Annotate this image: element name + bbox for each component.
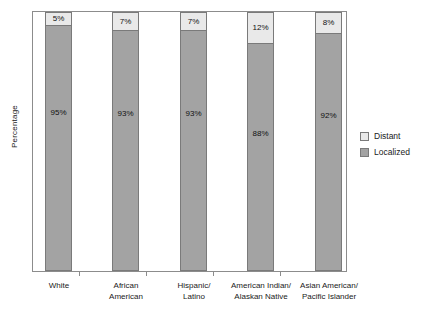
legend-label: Localized bbox=[374, 147, 410, 157]
stacked-bar-chart: Percentage 5% 95% 7% 93% bbox=[0, 0, 428, 323]
bar-segment-label: 7% bbox=[188, 18, 200, 26]
bar-segment-localized[interactable]: 93% bbox=[180, 30, 207, 271]
bar-stack: 7% 93% bbox=[112, 12, 139, 271]
bar-segment-label: 92% bbox=[316, 112, 341, 120]
bar-group[interactable]: 7% 93% bbox=[180, 12, 207, 271]
bar-segment-distant[interactable]: 12% bbox=[247, 12, 274, 43]
bar-group[interactable]: 8% 92% bbox=[315, 12, 342, 271]
legend-item-distant[interactable]: Distant bbox=[360, 131, 426, 141]
x-axis-label-asian-american-pacific-islander: Asian American/ Pacific Islander bbox=[281, 281, 377, 302]
bar-segment-distant[interactable]: 8% bbox=[315, 12, 342, 33]
bar-stack: 7% 93% bbox=[180, 12, 207, 271]
bar-segment-label: 95% bbox=[46, 109, 71, 117]
bar-segment-label: 5% bbox=[53, 15, 65, 23]
bar-segment-label: 7% bbox=[120, 18, 132, 26]
plot-area: 5% 95% 7% 93% 7% bbox=[33, 12, 346, 271]
x-axis-label-line: Asian American/ bbox=[281, 281, 377, 292]
bar-segment-label: 88% bbox=[248, 130, 273, 138]
x-axis-tick bbox=[146, 272, 147, 276]
bar-segment-distant[interactable]: 7% bbox=[180, 12, 207, 30]
x-axis-tick bbox=[79, 272, 80, 276]
bar-segment-localized[interactable]: 95% bbox=[45, 25, 72, 271]
bar-group[interactable]: 7% 93% bbox=[112, 12, 139, 271]
bar-stack: 12% 88% bbox=[247, 12, 274, 271]
bar-segment-label: 93% bbox=[113, 110, 138, 118]
x-axis-label-line: Pacific Islander bbox=[281, 292, 377, 303]
bar-segment-distant[interactable]: 7% bbox=[112, 12, 139, 30]
bar-segment-label: 12% bbox=[252, 24, 268, 32]
legend-swatch-icon bbox=[360, 148, 369, 157]
bar-segment-localized[interactable]: 92% bbox=[315, 33, 342, 271]
bar-segment-distant[interactable]: 5% bbox=[45, 12, 72, 25]
legend-item-localized[interactable]: Localized bbox=[360, 147, 426, 157]
bar-segment-label: 8% bbox=[323, 19, 335, 27]
legend-swatch-icon bbox=[360, 132, 369, 141]
bar-stack: 5% 95% bbox=[45, 12, 72, 271]
bar-group[interactable]: 12% 88% bbox=[247, 12, 274, 271]
chart-legend: Distant Localized bbox=[360, 131, 426, 163]
bar-segment-localized[interactable]: 93% bbox=[112, 30, 139, 271]
x-axis-tick bbox=[213, 272, 214, 276]
bar-stack: 8% 92% bbox=[315, 12, 342, 271]
bar-group[interactable]: 5% 95% bbox=[45, 12, 72, 271]
x-axis-tick bbox=[280, 272, 281, 276]
legend-label: Distant bbox=[374, 131, 400, 141]
bar-segment-label: 93% bbox=[181, 110, 206, 118]
bar-segment-localized[interactable]: 88% bbox=[247, 43, 274, 271]
y-axis-title: Percentage bbox=[10, 87, 19, 167]
